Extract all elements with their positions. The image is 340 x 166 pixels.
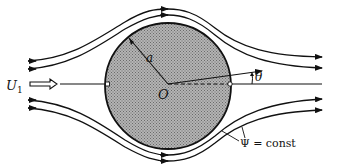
freestream-label: U1 xyxy=(6,78,23,95)
freestream-subscript: 1 xyxy=(17,85,23,95)
freestream-double-arrow-icon xyxy=(30,79,57,89)
streamfunction-label: Ψ = const xyxy=(240,137,296,150)
cylinder-flow-diagram: U1 a O θ Ψ = const xyxy=(0,0,340,166)
cylinder xyxy=(105,23,231,149)
radius-label: a xyxy=(146,51,153,65)
origin-label: O xyxy=(158,87,169,102)
stagnation-point-rear xyxy=(228,82,232,86)
stagnation-point-front xyxy=(106,82,110,86)
angle-label: θ xyxy=(255,70,263,84)
